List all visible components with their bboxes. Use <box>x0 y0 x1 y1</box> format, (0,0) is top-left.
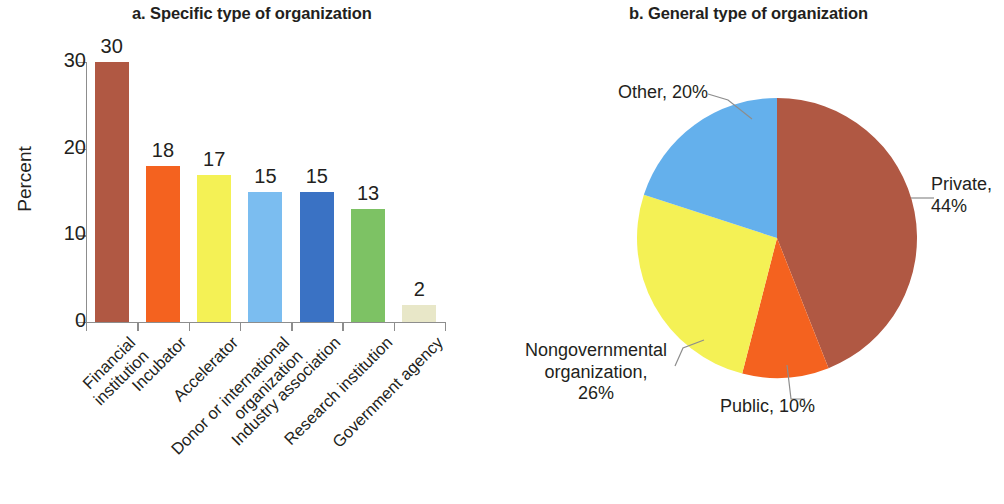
y-tick-label: 10 <box>40 222 86 245</box>
bar-chart-panel: a. Specific type of organization Percent… <box>0 0 500 504</box>
x-tick-mark <box>240 322 241 331</box>
pie-label-ngo: Nongovernmentalorganization,26% <box>506 340 686 405</box>
x-tick-mark <box>291 322 292 331</box>
pie-label-line: Private, <box>931 174 992 194</box>
pie-label-line: 44% <box>931 196 967 216</box>
x-tick-mark <box>445 322 446 331</box>
pie-label-public: Public, 10% <box>720 396 880 418</box>
figure-root: a. Specific type of organization Percent… <box>0 0 1004 504</box>
bar-group[interactable]: 30 <box>86 62 137 322</box>
x-axis-line <box>86 322 445 323</box>
bar-value-label: 15 <box>291 165 342 188</box>
bar-group[interactable]: 17 <box>189 62 240 322</box>
bar[interactable] <box>402 305 436 322</box>
x-tick-mark <box>394 322 395 331</box>
bar-group[interactable]: 15 <box>240 62 291 322</box>
pie-graphic <box>500 0 1004 504</box>
y-tick-label: 30 <box>40 49 86 72</box>
bar-group[interactable]: 2 <box>394 62 445 322</box>
bar-value-label: 2 <box>394 278 445 301</box>
x-tick-mark <box>86 322 87 331</box>
panel-a-title: a. Specific type of organization <box>132 4 372 23</box>
bar-value-label: 30 <box>86 35 137 58</box>
bar-value-label: 15 <box>240 165 291 188</box>
y-tick-label: 0 <box>40 309 86 332</box>
pie-label-line: 26% <box>578 383 614 403</box>
bar-value-label: 17 <box>189 148 240 171</box>
pie-label-line: Nongovernmental <box>525 340 667 360</box>
bar-group[interactable]: 13 <box>342 62 393 322</box>
bar[interactable] <box>300 192 334 322</box>
pie-label-line: Other, 20% <box>618 82 708 102</box>
bar-group[interactable]: 18 <box>137 62 188 322</box>
bar-group[interactable]: 15 <box>291 62 342 322</box>
x-tick-mark <box>189 322 190 331</box>
y-tick-label: 20 <box>40 136 86 159</box>
x-tick-mark <box>342 322 343 331</box>
pie-label-line: organization, <box>544 362 647 382</box>
bar-value-label: 18 <box>137 139 188 162</box>
bar[interactable] <box>197 175 231 322</box>
pie-label-other: Other, 20% <box>548 82 708 104</box>
y-axis-title: Percent <box>14 109 36 249</box>
bar[interactable] <box>95 62 129 322</box>
pie-chart-panel: b. General type of organization Other, 2… <box>500 0 1004 504</box>
bar[interactable] <box>351 209 385 322</box>
bar[interactable] <box>146 166 180 322</box>
pie-label-private: Private,44% <box>931 174 1004 217</box>
bar[interactable] <box>248 192 282 322</box>
bar-value-label: 13 <box>342 182 393 205</box>
pie-label-line: Public, 10% <box>720 396 815 416</box>
x-tick-mark <box>137 322 138 331</box>
